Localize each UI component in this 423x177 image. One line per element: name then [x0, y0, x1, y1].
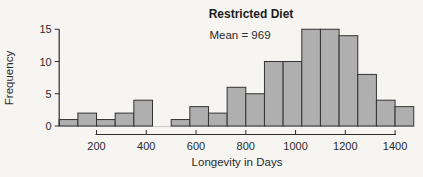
histogram-bar: [376, 100, 395, 126]
histogram-bar: [395, 107, 414, 126]
histogram-bar: [171, 120, 190, 126]
x-axis-label: Longevity in Days: [192, 156, 283, 168]
histogram-bar: [115, 113, 134, 126]
x-tick-label: 1400: [383, 140, 407, 152]
histogram-bar: [227, 87, 246, 126]
x-tick-label: 1000: [283, 140, 307, 152]
histogram-bar: [339, 36, 358, 126]
chart-title: Restricted Diet: [209, 7, 294, 21]
histogram-bar: [59, 120, 78, 126]
histogram-bar: [97, 120, 116, 126]
histogram-bar: [283, 62, 302, 127]
x-tick-label: 1200: [333, 140, 357, 152]
histogram-bar: [302, 29, 321, 126]
y-tick-label: 5: [46, 88, 52, 100]
y-tick-label: 15: [39, 23, 51, 35]
x-tick-label: 400: [137, 140, 155, 152]
histogram-figure: 200400600800100012001400 051015 Restrict…: [0, 0, 423, 177]
histogram-bar: [190, 107, 209, 126]
histogram-bar: [78, 113, 97, 126]
histogram-bar: [320, 29, 339, 126]
x-axis: 200400600800100012001400: [87, 130, 407, 152]
histogram-chart: 200400600800100012001400 051015 Restrict…: [0, 0, 423, 177]
histogram-bars: [59, 29, 414, 126]
histogram-bar: [358, 74, 377, 126]
histogram-bar: [264, 62, 283, 127]
y-axis: 051015: [39, 23, 59, 132]
x-tick-label: 800: [237, 140, 255, 152]
x-tick-label: 600: [187, 140, 205, 152]
x-tick-label: 200: [87, 140, 105, 152]
y-tick-label: 0: [46, 120, 52, 132]
mean-annotation: Mean = 969: [209, 29, 270, 41]
histogram-bar: [246, 94, 265, 126]
histogram-bar: [208, 113, 227, 126]
y-axis-label: Frequency: [3, 51, 15, 106]
histogram-bar: [134, 100, 153, 126]
y-tick-label: 10: [39, 56, 51, 68]
